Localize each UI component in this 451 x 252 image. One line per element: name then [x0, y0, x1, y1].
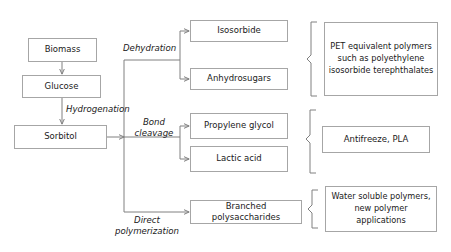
- node-anhydrosugars-label: Anhydrosugars: [207, 73, 271, 84]
- node-propylene-glycol[interactable]: Propylene glycol: [190, 113, 288, 139]
- node-lactic-acid-label: Lactic acid: [216, 153, 261, 164]
- node-water-soluble-polymers[interactable]: Water soluble polymers, new polymer appl…: [325, 186, 437, 232]
- node-pet-polymers-label: PET equivalent polymers such as polyethy…: [328, 41, 434, 77]
- bracket-pet: [307, 22, 317, 96]
- label-direct-polymerization: Direct polymerization: [107, 215, 187, 236]
- node-propylene-glycol-label: Propylene glycol: [204, 120, 274, 131]
- label-hydrogenation-text: Hydrogenation: [66, 104, 130, 114]
- node-sorbitol-label: Sorbitol: [44, 131, 77, 142]
- node-pet-polymers[interactable]: PET equivalent polymers such as polyethy…: [324, 22, 438, 96]
- label-bond-cleavage: Bond cleavage: [131, 117, 177, 138]
- node-branched-polysaccharides[interactable]: Branched polysaccharides: [190, 200, 302, 224]
- label-dehydration: Dehydration: [123, 43, 176, 54]
- label-dehydration-text: Dehydration: [123, 43, 176, 53]
- node-isosorbide[interactable]: Isosorbide: [190, 20, 288, 42]
- node-branched-polysaccharides-label: Branched polysaccharides: [194, 201, 298, 224]
- node-antifreeze-pla-label: Antifreeze, PLA: [344, 134, 409, 145]
- node-biomass-label: Biomass: [45, 44, 81, 55]
- label-bond-cleavage-line2: cleavage: [131, 128, 177, 139]
- label-direct-polymerization-line1: Direct: [107, 215, 187, 226]
- node-antifreeze-pla[interactable]: Antifreeze, PLA: [322, 126, 430, 153]
- node-glucose-label: Glucose: [45, 81, 79, 92]
- node-sorbitol[interactable]: Sorbitol: [14, 125, 107, 149]
- label-direct-polymerization-line2: polymerization: [107, 226, 187, 237]
- node-isosorbide-label: Isosorbide: [217, 25, 261, 36]
- label-hydrogenation: Hydrogenation: [66, 104, 130, 115]
- node-water-soluble-polymers-label: Water soluble polymers, new polymer appl…: [329, 191, 433, 227]
- label-bond-cleavage-line1: Bond: [131, 117, 177, 128]
- node-lactic-acid[interactable]: Lactic acid: [190, 146, 288, 172]
- bracket-water-soluble: [308, 190, 318, 228]
- node-biomass[interactable]: Biomass: [28, 38, 97, 62]
- process-flow-diagram: Biomass Glucose Sorbitol Hydrogenation D…: [0, 0, 451, 252]
- bracket-antifreeze: [306, 110, 316, 173]
- node-glucose[interactable]: Glucose: [22, 75, 101, 98]
- node-anhydrosugars[interactable]: Anhydrosugars: [190, 68, 288, 90]
